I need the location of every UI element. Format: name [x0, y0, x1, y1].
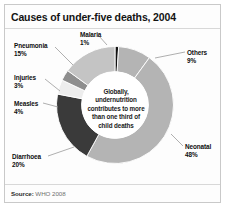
slice-label-measles: Measles 4% [14, 100, 38, 116]
source-divider [5, 184, 220, 185]
slice-label-others-pct: 9% [187, 57, 207, 65]
leader-line-others [155, 52, 185, 58]
center-line-5: child deaths [98, 122, 134, 129]
leader-line-pneumonia [55, 47, 73, 65]
center-annotation: Globally, undernutrition contributes to … [80, 88, 152, 130]
slice-label-diarrhoea-name: Diarrhoea [12, 153, 41, 160]
slice-label-injuries-pct: 3% [14, 82, 36, 90]
slice-label-neonatal-name: Neonatal [185, 143, 211, 150]
slice-label-malaria-pct: 1% [80, 39, 101, 47]
slice-label-measles-pct: 4% [14, 108, 38, 116]
slice-label-others-name: Others [187, 49, 207, 56]
center-line-2: undernutrition [95, 96, 137, 103]
slice-label-pneumonia: Pneumonia 15% [14, 42, 48, 58]
leader-line-diarrhoea [48, 147, 74, 156]
slice-label-malaria-name: Malaria [80, 31, 101, 38]
slice-label-malaria: Malaria 1% [80, 31, 101, 47]
source-value: WHO 2008 [35, 190, 65, 197]
slice-label-injuries: Injuries 3% [14, 74, 36, 90]
chart-figure: Causes of under-five deaths, 2004 Global… [0, 0, 227, 209]
slice-label-injuries-name: Injuries [14, 74, 36, 81]
center-line-4: than one third of [92, 113, 140, 120]
slice-label-measles-name: Measles [14, 100, 38, 107]
slice-label-neonatal: Neonatal 48% [185, 143, 211, 159]
slice-label-pneumonia-pct: 15% [14, 50, 48, 58]
slice-label-pneumonia-name: Pneumonia [14, 42, 48, 49]
leader-line-measles [43, 103, 58, 107]
leader-line-injuries [45, 79, 60, 91]
slice-label-diarrhoea: Diarrhoea 20% [12, 153, 41, 169]
slice-label-diarrhoea-pct: 20% [12, 161, 41, 169]
source-label: Source: [11, 190, 34, 197]
center-line-1: Globally, [103, 88, 128, 95]
slice-label-others: Others 9% [187, 49, 207, 65]
slice-label-neonatal-pct: 48% [185, 151, 211, 159]
leader-line-neonatal [171, 134, 183, 146]
source-note: Source: WHO 2008 [11, 190, 66, 197]
center-line-3: contributes to more [87, 105, 144, 112]
